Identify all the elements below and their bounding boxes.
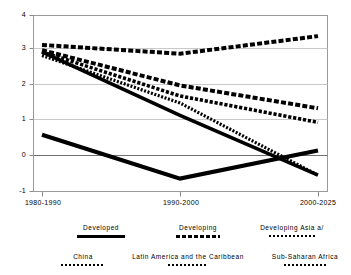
legend-swatch-developing [176,235,220,238]
legend-label-sub-saharan-africa: Sub-Saharan Africa [258,252,351,261]
legend-swatch-developed [77,235,125,238]
legend-swatch-china [61,264,105,266]
legend-label-developing-asia: Developing Asia a/ [240,223,344,232]
legend-label-latin-america-and-the-caribbean: Latin America and the Caribbean [118,252,258,261]
legend-label-china: China [50,252,116,261]
legend-item-china[interactable]: China [50,252,116,266]
y-axis-label-neg1: -1 [12,187,26,194]
y-axis-label-4: 4 [12,11,26,18]
x-axis-label-1990-2000: 1990-2000 [144,199,218,206]
legend-item-latin-america-and-the-caribbean[interactable]: Latin America and the Caribbean [118,252,258,266]
y-axis-label-3: 3 [12,44,26,51]
legend-swatch-sub-saharan-africa [284,264,326,266]
legend-item-sub-saharan-africa[interactable]: Sub-Saharan Africa [258,252,351,266]
legend-swatch-developing-asia [269,235,315,237]
legend-label-developing: Developing [155,223,241,232]
x-axis-label-2000-2025: 2000-2025 [281,199,351,206]
legend-item-developed[interactable]: Developed [58,223,144,238]
y-axis-label-2: 2 [12,80,26,87]
chart-legend: Developed Developing Developing Asia a/ … [0,216,351,275]
x-axis-label-1980-1990: 1980-1990 [6,199,80,206]
chart-figure: 4 3 2 1 0 -1 1980-1990 1990-2000 2000-20… [0,0,351,275]
legend-label-developed: Developed [58,223,144,232]
legend-swatch-latin-america-and-the-caribbean [168,264,208,266]
y-axis-label-1: 1 [12,115,26,122]
legend-item-developing-asia[interactable]: Developing Asia a/ [240,223,344,237]
y-axis-label-0: 0 [12,151,26,158]
legend-item-developing[interactable]: Developing [155,223,241,238]
